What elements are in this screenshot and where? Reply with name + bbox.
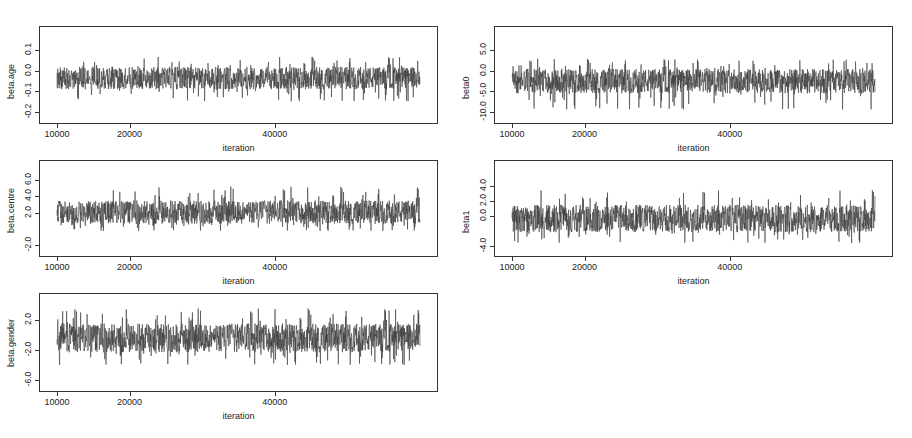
y-tick-mark	[35, 380, 39, 381]
y-axis-label: beta.gender	[6, 318, 16, 366]
x-tick-label: 40000	[262, 397, 287, 407]
x-tick-mark	[275, 392, 276, 396]
y-tick-mark	[35, 350, 39, 351]
mcmc-trace-line	[0, 0, 912, 438]
x-tick-mark	[130, 392, 131, 396]
x-tick-label: 10000	[44, 397, 69, 407]
y-tick-label: -2.0	[23, 334, 33, 364]
x-tick-mark	[57, 392, 58, 396]
y-tick-label: 2.0	[23, 304, 33, 334]
x-axis-label: iteration	[222, 411, 254, 421]
y-tick-mark	[35, 320, 39, 321]
y-tick-label: -6.0	[23, 364, 33, 394]
x-tick-label: 20000	[117, 397, 142, 407]
